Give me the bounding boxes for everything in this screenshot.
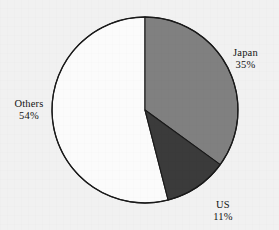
pie-label-others-value: 54%	[8, 110, 50, 122]
pie-label-others-name: Others	[8, 98, 50, 110]
pie-label-japan: Japan 35%	[233, 47, 258, 70]
pie-label-us-value: 11%	[206, 211, 240, 223]
pie-label-japan-value: 35%	[233, 59, 258, 71]
pie-label-us-name: US	[206, 199, 240, 211]
pie-label-us: US 11%	[206, 199, 240, 222]
pie-label-japan-name: Japan	[233, 47, 258, 59]
pie-chart-figure: Japan 35% US 11% Others 54%	[0, 0, 279, 230]
pie-label-others: Others 54%	[8, 98, 50, 121]
